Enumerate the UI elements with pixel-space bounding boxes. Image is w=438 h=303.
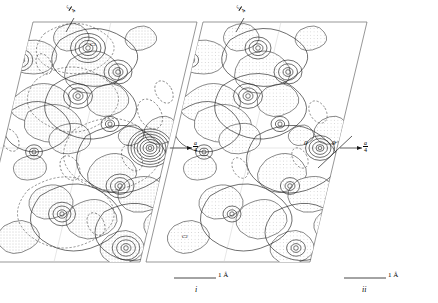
panel-i-scale-label: 1 Å [218,272,228,279]
atom-label-c3: C3 [90,42,96,47]
panel-i-density [0,23,183,264]
panel-ii-label: ii [362,286,366,294]
panel-ii-scale-label: 1 Å [388,272,398,279]
density-map-canvas [0,0,438,303]
panel-i-axis-label-c4: c 4 [68,2,73,16]
fraction-a-over-4: a 4 [193,140,198,154]
atom-label-c2: C2 [182,234,188,239]
panel-ii-origin-label: 0 [304,140,308,147]
panel-i-axis-label-a4: a 4 [193,140,198,154]
panel-i-label: i [195,286,197,294]
figure-root: c 4 a 4 1 Å i C3 C2 c 4 0 0 a 4 1 Å ii [0,0,438,303]
panel-ii-axis-label-c4: c 4 [238,2,243,16]
panel-ii-origin-label-2: 0 [332,140,336,147]
fraction-a-over-4: a 4 [363,140,368,154]
panel-ii-axis-label-a4: a 4 [363,140,368,154]
